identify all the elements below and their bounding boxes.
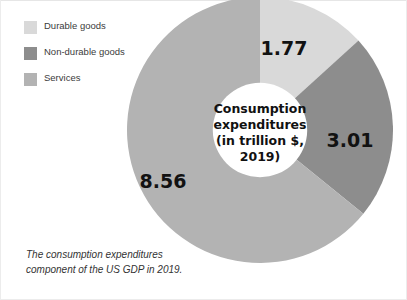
legend-label-durable-goods: Durable goods (44, 20, 106, 33)
center-text-line-3: (in trillion $, (216, 133, 304, 148)
legend-swatch-non-durable-goods (24, 47, 37, 60)
slice-value-non-durable-goods: 3.01 (327, 129, 374, 151)
figure-caption: The consumption expenditures component o… (26, 247, 241, 277)
slice-value-durable-goods: 1.77 (261, 37, 308, 59)
center-text-line-2: expenditures (213, 117, 306, 132)
legend-swatch-services (24, 73, 37, 86)
center-text-line-1: Consumption (214, 101, 307, 116)
legend-item-services: Services (24, 72, 132, 86)
legend-label-services: Services (44, 72, 80, 85)
legend-item-non-durable-goods: Non-durable goods (24, 46, 132, 60)
donut-chart: 1.77 3.01 8.56 Consumption expenditures … (127, 0, 393, 263)
slice-value-services: 8.56 (140, 170, 187, 192)
figure-caption-line-2: component of the US GDP in 2019. (26, 262, 241, 277)
chart-legend: Durable goods Non-durable goods Services (24, 20, 132, 98)
legend-label-non-durable-goods: Non-durable goods (44, 46, 125, 59)
legend-item-durable-goods: Durable goods (24, 20, 132, 34)
figure-canvas: Durable goods Non-durable goods Services… (0, 0, 407, 300)
frame-left-rule (0, 0, 1, 300)
donut-chart-svg: 1.77 3.01 8.56 Consumption expenditures … (127, 0, 393, 263)
center-text-line-4: 2019) (240, 149, 281, 164)
legend-swatch-durable-goods (24, 21, 37, 34)
figure-caption-line-1: The consumption expenditures (26, 247, 241, 262)
